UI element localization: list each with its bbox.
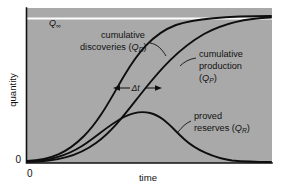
figure-container: Δt Q∞ cumulative discoveries (QD) cumula…	[0, 0, 281, 187]
discoveries-label-text: discoveries (	[80, 42, 132, 52]
reserves-paren-close: )	[247, 123, 250, 133]
q-infinity-symbol: Q	[49, 18, 56, 28]
x-axis-origin-label: 0	[27, 168, 33, 179]
discoveries-symbol: Q	[132, 42, 139, 52]
production-label-line1: cumulative	[199, 49, 243, 59]
discoveries-label-line1: cumulative	[101, 30, 145, 40]
y-axis-label: quantity	[7, 73, 18, 107]
q-infinity-subscript: ∞	[56, 22, 61, 29]
plot-area-background	[26, 8, 272, 163]
delta-t-label: Δt	[131, 83, 141, 93]
discoveries-label-line2: discoveries (QD)	[80, 42, 147, 53]
reserves-label-text: reserves (	[194, 123, 235, 133]
production-label-line2: production	[199, 61, 242, 71]
production-label-line3: (QP)	[199, 73, 217, 84]
production-paren-close: )	[214, 73, 217, 83]
reserves-symbol: Q	[235, 123, 242, 133]
reserves-label-line2: reserves (QR)	[194, 123, 250, 134]
discoveries-paren-close: )	[144, 42, 147, 52]
reserves-label-line1: proved	[194, 111, 222, 121]
y-axis-origin-label: 0	[15, 154, 21, 165]
x-axis-label: time	[139, 172, 157, 183]
production-symbol: Q	[202, 73, 209, 83]
